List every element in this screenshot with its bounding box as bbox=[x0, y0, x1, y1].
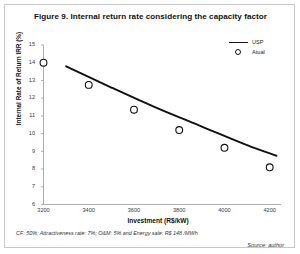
figure-title: Figure 9. Internal return rate consideri… bbox=[5, 12, 296, 21]
y-tick-label: 10 bbox=[19, 131, 35, 137]
y-tick-label: 12 bbox=[19, 95, 35, 101]
y-tick-label: 6 bbox=[19, 202, 35, 208]
figure-frame: Figure 9. Internal return rate consideri… bbox=[4, 4, 295, 248]
y-tick-label: 7 bbox=[19, 184, 35, 190]
legend-label-atual: Atual bbox=[249, 49, 265, 55]
x-tick-label: 3800 bbox=[162, 208, 196, 214]
x-tick-label: 3200 bbox=[27, 208, 61, 214]
x-tick-label: 3600 bbox=[117, 208, 151, 214]
data-point-marker bbox=[266, 164, 273, 171]
data-point-marker bbox=[40, 59, 47, 66]
x-tick-label: 4200 bbox=[253, 208, 287, 214]
y-tick-label: 14 bbox=[19, 60, 35, 66]
usp-trend-line bbox=[66, 66, 276, 155]
circle-marker-icon bbox=[227, 49, 249, 55]
axis-lines bbox=[44, 45, 282, 205]
legend-label-usp: USP bbox=[249, 39, 264, 45]
chart-note-parameters: CF: 50%; Attractiveness rate: 7%; O&M: 5… bbox=[16, 230, 266, 236]
data-point-marker bbox=[221, 144, 228, 151]
chart-canvas bbox=[35, 39, 281, 205]
x-tick-label: 3400 bbox=[72, 208, 106, 214]
y-tick-label: 8 bbox=[19, 166, 35, 172]
data-point-marker bbox=[85, 81, 92, 88]
y-tick-label: 13 bbox=[19, 78, 35, 84]
y-tick-label: 9 bbox=[19, 149, 35, 155]
y-tick-label: 11 bbox=[19, 113, 35, 119]
legend-item-usp: USP bbox=[227, 37, 289, 47]
chart-note-source: Source: author bbox=[247, 242, 284, 248]
y-tick-label: 15 bbox=[19, 42, 35, 48]
series-usp-line bbox=[66, 66, 276, 155]
line-swatch-icon bbox=[227, 42, 249, 43]
legend-item-atual: Atual bbox=[227, 47, 289, 57]
x-axis-title: Investment (R$/kW) bbox=[35, 217, 281, 224]
y-axis-tick-labels: 6789101112131415 bbox=[17, 39, 35, 209]
data-point-marker bbox=[176, 127, 183, 134]
data-point-marker bbox=[131, 106, 138, 113]
series-atual-markers bbox=[40, 59, 273, 170]
plot-area bbox=[35, 39, 281, 205]
x-tick-label: 4000 bbox=[207, 208, 241, 214]
chart-legend: USP Atual bbox=[227, 37, 289, 57]
